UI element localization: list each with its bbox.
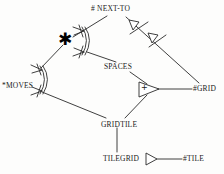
marker-open-triangle-tick-upper xyxy=(129,20,148,34)
node-label-next-to: # NEXT-TO xyxy=(91,5,130,13)
node-label-spaces: SPACES xyxy=(104,63,132,71)
edge-star-to-next-to xyxy=(73,16,107,37)
marker-double-arc-moves xyxy=(31,64,48,97)
node-label-grid: #GRID xyxy=(193,85,216,93)
edge-moves-to-gridtile xyxy=(42,92,106,118)
node-label-tile: #TILE xyxy=(183,155,204,163)
plus-glyph: + xyxy=(141,84,148,92)
node-label-tilegrid: TILEGRID xyxy=(103,155,139,163)
edge-arc-to-spaces xyxy=(87,52,116,62)
asterisk-glyph: ✱ xyxy=(58,31,72,48)
edge-union-to-gridtile xyxy=(125,95,147,118)
diagram-canvas xyxy=(0,0,224,174)
entity-relationship-diagram: ✱ + # NEXT-TO *MOVES SPACES #GRID GRIDTI… xyxy=(0,0,224,174)
node-label-gridtile: GRIDTILE xyxy=(101,121,137,129)
node-label-moves: *MOVES xyxy=(2,82,33,90)
edge-next-to-to-grid xyxy=(126,17,199,83)
marker-open-triangle-tile xyxy=(146,153,157,165)
marker-double-arc-star xyxy=(73,25,90,58)
